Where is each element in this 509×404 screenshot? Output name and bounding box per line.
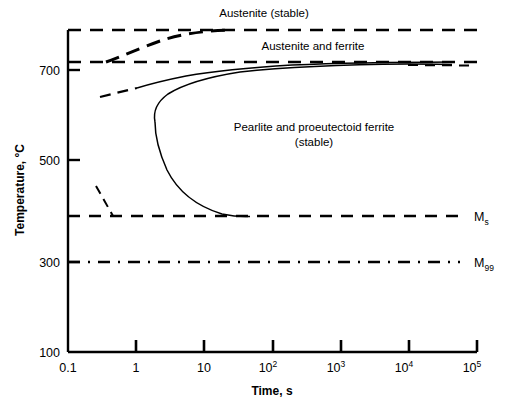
x-tick-label-1e2: 102 [259, 359, 278, 375]
x-tick-label-1: 1 [133, 361, 140, 375]
x-tick-label-1e3: 103 [327, 359, 346, 375]
y-tick-labels: 700 500 300 100 [39, 64, 60, 360]
region-label-austenite-stable: Austenite (stable) [219, 7, 309, 19]
a3-sloping-boundary [106, 30, 232, 62]
ms-label: Ms [474, 210, 489, 227]
axes-group [68, 30, 477, 352]
y-tick-marks [68, 70, 80, 262]
finish-curve-dashed-right [408, 65, 470, 66]
y-tick-label-300: 300 [39, 256, 60, 270]
plot-canvas: 700 500 300 100 0.1 1 10 102 103 104 105… [0, 0, 509, 404]
y-tick-label-500: 500 [39, 154, 60, 168]
region-label-pearlite-proeutectoid-ferrite: Pearlite and proeutectoid ferrite [234, 121, 394, 133]
x-tick-label-0.1: 0.1 [59, 361, 76, 375]
ms-sloping-dashed-segment [96, 186, 113, 216]
region-label-austenite-and-ferrite: Austenite and ferrite [262, 40, 365, 52]
transformation-finish-curve-upper [155, 64, 452, 122]
region-label-pearlite-stable: (stable) [295, 136, 334, 148]
transformation-start-curve-upper [137, 62, 452, 88]
ttt-diagram: 700 500 300 100 0.1 1 10 102 103 104 105… [0, 0, 509, 404]
x-tick-label-1e5: 105 [463, 359, 482, 375]
x-tick-label-1e4: 104 [395, 359, 414, 375]
x-tick-labels: 0.1 1 10 102 103 104 105 [59, 359, 481, 375]
y-tick-label-100: 100 [39, 346, 60, 360]
y-axis-title: Temperature, °C [13, 144, 27, 236]
x-tick-marks [136, 340, 477, 352]
start-curve-dashed-extension [100, 88, 137, 97]
y-tick-label-700: 700 [39, 64, 60, 78]
m99-label: M99 [474, 256, 494, 273]
x-axis-title: Time, s [251, 384, 292, 398]
c-curve-lower-branch [155, 122, 250, 217]
x-tick-label-10: 10 [197, 361, 211, 375]
